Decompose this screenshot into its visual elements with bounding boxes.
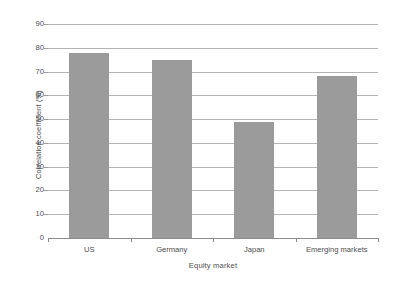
x-tick-label: US xyxy=(48,245,131,254)
y-axis-tick-labels: 0102030405060708090 xyxy=(0,0,44,283)
y-tick-label: 60 xyxy=(4,91,44,99)
x-tick-label: Germany xyxy=(131,245,214,254)
bar xyxy=(69,53,109,238)
bar xyxy=(152,60,192,238)
y-tick-label: 0 xyxy=(4,234,44,242)
x-axis-right-cap xyxy=(378,238,379,242)
y-tick-label: 50 xyxy=(4,115,44,123)
bar xyxy=(234,122,274,239)
y-tick-label: 70 xyxy=(4,68,44,76)
bar xyxy=(317,76,357,238)
y-tick-label: 40 xyxy=(4,139,44,147)
y-tick-label: 30 xyxy=(4,163,44,171)
x-tick-mark xyxy=(296,238,297,242)
x-axis-left-cap xyxy=(48,238,49,242)
y-tick-label: 80 xyxy=(4,44,44,52)
gridline xyxy=(48,48,378,49)
y-tick-label: 20 xyxy=(4,186,44,194)
x-tick-mark xyxy=(213,238,214,242)
x-axis-title: Equity market xyxy=(48,261,378,270)
x-tick-mark xyxy=(131,238,132,242)
y-tick-label: 10 xyxy=(4,210,44,218)
x-tick-label: Emerging markets xyxy=(296,245,379,254)
y-tick-label: 90 xyxy=(4,20,44,28)
bar-chart: Correlation coefficient (%) 010203040506… xyxy=(0,0,400,283)
plot-area xyxy=(48,22,378,238)
x-tick-label: Japan xyxy=(213,245,296,254)
gridline xyxy=(48,24,378,25)
